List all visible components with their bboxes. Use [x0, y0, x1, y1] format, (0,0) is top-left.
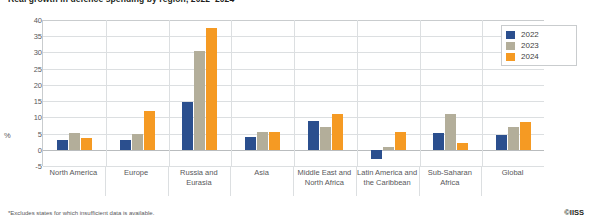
legend-label-2023: 2023: [521, 41, 539, 50]
y-axis-tick: 40: [14, 16, 42, 25]
bar-2022[interactable]: [496, 135, 507, 150]
copyright-credit: ©IISS: [564, 208, 584, 217]
legend-swatch-2024: [506, 53, 515, 61]
bar-group: [357, 20, 420, 166]
plot-area: [42, 20, 544, 166]
bar-2022[interactable]: [433, 133, 444, 150]
bar-2022[interactable]: [308, 121, 319, 150]
bar-2024[interactable]: [520, 122, 531, 150]
x-axis-label: Asia: [230, 168, 293, 178]
x-axis-labels: North AmericaEuropeRussia and EurasiaAsi…: [42, 168, 544, 202]
chart-title: Real growth in defence spending by regio…: [8, 0, 238, 5]
y-axis-tick: 10: [14, 113, 42, 122]
legend-label-2022: 2022: [521, 30, 539, 39]
legend-item[interactable]: 2023: [506, 40, 572, 51]
y-axis-tick: 0: [14, 145, 42, 154]
bar-group: [231, 20, 294, 166]
bar-group: [169, 20, 232, 166]
bar-group: [420, 20, 483, 166]
legend-label-2024: 2024: [521, 52, 539, 61]
bar-group: [294, 20, 357, 166]
bar-2023[interactable]: [69, 133, 80, 150]
x-label-separator: [105, 166, 106, 196]
y-axis-tick: 5: [14, 129, 42, 138]
bar-2024[interactable]: [332, 114, 343, 150]
legend-item[interactable]: 2022: [506, 29, 572, 40]
x-axis-label: North America: [42, 168, 105, 178]
y-axis-tick: 25: [14, 64, 42, 73]
bar-2023[interactable]: [508, 127, 519, 150]
bar-2024[interactable]: [269, 132, 280, 150]
y-axis-tick: 35: [14, 32, 42, 41]
x-axis-label: Europe: [105, 168, 168, 178]
x-axis-label: Middle East and North Africa: [293, 168, 356, 187]
x-axis-label: Sub-Saharan Africa: [419, 168, 482, 187]
chart-figure: Real growth in defence spending by regio…: [0, 0, 590, 221]
bar-2024[interactable]: [144, 111, 155, 150]
x-label-separator: [293, 166, 294, 196]
y-axis-label: %: [4, 131, 11, 140]
bar-2024[interactable]: [395, 132, 406, 150]
bar-2023[interactable]: [320, 127, 331, 150]
legend-item[interactable]: 2024: [506, 51, 572, 62]
chart-footnote: *Excludes states for which insufficient …: [8, 210, 154, 216]
x-axis-label: Russia and Eurasia: [168, 168, 231, 187]
y-axis-tick: 20: [14, 80, 42, 89]
x-label-separator: [481, 166, 482, 196]
chart-legend: 2022 2023 2024: [501, 25, 577, 66]
x-label-separator: [168, 166, 169, 196]
bar-2024[interactable]: [81, 138, 92, 149]
bar-2023[interactable]: [194, 51, 205, 150]
x-label-separator: [230, 166, 231, 196]
bar-2023[interactable]: [383, 147, 394, 150]
bar-2022[interactable]: [371, 150, 382, 160]
bar-2022[interactable]: [245, 137, 256, 150]
y-axis-tick: 15: [14, 97, 42, 106]
bar-2022[interactable]: [182, 102, 193, 150]
bar-2022[interactable]: [120, 140, 131, 150]
x-axis-label: Latin America and the Caribbean: [356, 168, 419, 187]
legend-swatch-2022: [506, 31, 515, 39]
bar-2023[interactable]: [132, 134, 143, 150]
bar-2024[interactable]: [206, 28, 217, 150]
bar-2022[interactable]: [57, 140, 68, 150]
y-axis-tick: 30: [14, 48, 42, 57]
bar-2023[interactable]: [257, 132, 268, 150]
legend-swatch-2023: [506, 42, 515, 50]
bar-group: [43, 20, 106, 166]
x-axis-label: Global: [481, 168, 544, 178]
bar-2023[interactable]: [445, 114, 456, 150]
y-axis-tick: -5: [14, 162, 42, 171]
x-label-separator: [356, 166, 357, 196]
bar-group: [106, 20, 169, 166]
x-label-separator: [419, 166, 420, 196]
bar-2024[interactable]: [457, 143, 468, 149]
